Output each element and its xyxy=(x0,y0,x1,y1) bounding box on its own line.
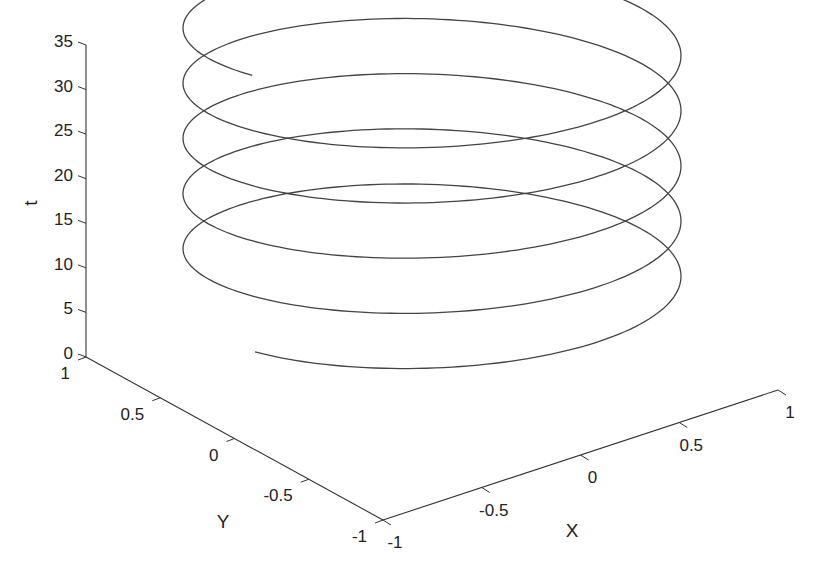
y-tick-label: 1 xyxy=(61,364,70,383)
x-tick xyxy=(482,488,490,493)
plot-area: 0510152025303510.50-0.5-1-1-0.500.51 X Y… xyxy=(0,0,824,561)
x-tick-label: 0.5 xyxy=(679,436,703,455)
x-tick xyxy=(778,390,786,395)
x-tick xyxy=(581,455,589,460)
x-tick xyxy=(383,520,391,525)
y-tick xyxy=(301,479,309,482)
z-tick xyxy=(78,354,86,357)
axis-tick-labels: 0510152025303510.50-0.5-1-1-0.500.51 xyxy=(54,32,795,552)
z-tick-label: 20 xyxy=(54,166,73,185)
z-tick-label: 35 xyxy=(54,32,73,51)
z-tick-label: 30 xyxy=(54,77,73,96)
x-tick-label: 1 xyxy=(785,403,794,422)
z-tick-label: 15 xyxy=(54,210,73,229)
y-tick-label: 0.5 xyxy=(121,405,145,424)
y-tick xyxy=(78,357,86,360)
y-tick xyxy=(375,520,383,523)
z-tick xyxy=(78,309,86,312)
x-tick xyxy=(679,423,687,428)
z-tick xyxy=(78,87,86,90)
y-tick xyxy=(152,398,160,401)
axes-lines xyxy=(86,45,778,520)
y-tick-label: 0 xyxy=(209,446,218,465)
z-tick-label: 5 xyxy=(64,299,73,318)
y-tick xyxy=(227,439,235,442)
y-tick-label: -1 xyxy=(352,527,367,546)
x-tick-label: -0.5 xyxy=(479,501,508,520)
z-tick xyxy=(78,265,86,268)
z-tick xyxy=(78,176,86,179)
z-tick xyxy=(78,42,86,45)
z-tick-label: 10 xyxy=(54,255,73,274)
helix-3d-figure: 0510152025303510.50-0.5-1-1-0.500.51 X Y… xyxy=(0,0,824,561)
z-tick-label: 0 xyxy=(64,344,73,363)
helix-curve xyxy=(183,0,681,369)
x-axis-label: X xyxy=(566,520,579,541)
x-tick-label: 0 xyxy=(588,468,597,487)
z-tick xyxy=(78,131,86,134)
y-axis-label: Y xyxy=(217,511,230,532)
x-tick-label: -1 xyxy=(387,533,402,552)
z-axis-label: t xyxy=(20,200,41,206)
z-tick xyxy=(78,220,86,223)
z-tick-label: 25 xyxy=(54,121,73,140)
y-tick-label: -0.5 xyxy=(263,486,292,505)
